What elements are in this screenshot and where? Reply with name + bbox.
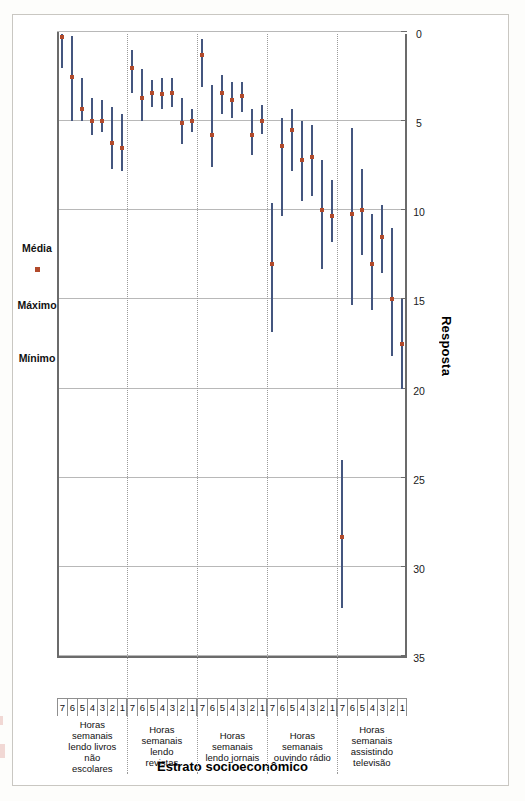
chart: MínimoMáximoMédia 7654321Horas semanais … [35,24,487,776]
min-max-range-line [351,128,353,305]
legend-item-mínimo: Mínimo [31,339,43,376]
mean-marker [190,119,194,123]
mean-marker [400,342,404,346]
category-tick-label: 7 [339,702,344,713]
mean-marker [340,535,344,539]
mean-marker [310,155,314,159]
mean-marker [90,119,94,123]
mean-marker [360,208,364,212]
category-tick-label: 6 [349,702,354,713]
category-tick-label: 6 [209,702,214,713]
legend-item-máximo: Máximo [31,286,43,325]
category-axis-title: Estrato socioeconômico [57,756,407,778]
value-axis-tick-label: 25 [399,474,439,486]
category-tick-7: 7 [57,698,67,716]
category-tick-6: 6 [207,698,217,716]
category-tick-6: 6 [137,698,147,716]
gridline [57,209,407,210]
category-tick-7: 7 [127,698,137,716]
mean-marker [370,262,374,266]
min-max-range-line [291,109,293,171]
category-tick-3: 3 [167,698,177,716]
min-max-range-line [251,109,253,155]
mean-marker [110,141,114,145]
min-max-range-line [201,39,203,87]
legend-mean-marker-icon [34,267,39,272]
gridline [57,388,407,389]
category-tick-5: 5 [287,698,297,716]
group-separator [197,34,198,774]
category-tick-2: 2 [107,698,117,716]
mean-marker [300,158,304,162]
category-tick-3: 3 [307,698,317,716]
mean-marker [100,119,104,123]
category-tick-label: 2 [249,702,254,713]
gridline [57,31,407,32]
category-tick-label: 3 [239,702,244,713]
chart-legend: MínimoMáximoMédia [31,233,43,376]
min-max-range-line [321,160,323,269]
mean-marker [200,53,204,57]
category-tick-4: 4 [157,698,167,716]
legend-item-label: Máximo [17,300,56,312]
category-tick-2: 2 [177,698,187,716]
category-tick-1: 1 [327,698,337,716]
category-tick-label: 6 [69,702,74,713]
mean-marker [350,212,354,216]
gridline [57,566,407,567]
rotated-chart-stage: MínimoMáximoMédia 7654321Horas semanais … [35,24,487,776]
category-tick-1: 1 [187,698,197,716]
mean-marker [220,91,224,95]
category-tick-label: 4 [89,702,94,713]
category-tick-5: 5 [147,698,157,716]
category-tick-3: 3 [237,698,247,716]
mean-marker [150,91,154,95]
category-tick-label: 6 [139,702,144,713]
min-max-range-line [391,228,393,356]
mean-marker [230,98,234,102]
category-tick-label: 1 [189,702,194,713]
gridline [57,477,407,478]
category-tick-3: 3 [97,698,107,716]
category-tick-label: 1 [399,702,404,713]
plot-top-rule [57,32,59,656]
min-max-range-line [211,86,213,168]
category-tick-label: 4 [159,702,164,713]
legend-item-label: Média [22,242,52,254]
value-axis-tick-label: 15 [399,295,439,307]
category-tick-label: 2 [109,702,114,713]
figure-frame: MínimoMáximoMédia 7654321Horas semanais … [12,14,509,786]
group-separator [267,34,268,774]
category-tick-3: 3 [377,698,387,716]
mean-marker [250,133,254,137]
category-tick-1: 1 [397,698,407,716]
category-tick-label: 7 [129,702,134,713]
category-tick-label: 7 [59,702,64,713]
mean-marker [60,35,64,39]
category-tick-label: 3 [379,702,384,713]
value-axis-title: Resposta [439,34,454,658]
mean-marker [390,297,394,301]
category-tick-5: 5 [77,698,87,716]
category-tick-label: 5 [79,702,84,713]
min-max-range-line [81,78,83,121]
mean-marker [170,91,174,95]
category-tick-label: 3 [309,702,314,713]
category-tick-label: 3 [169,702,174,713]
category-tick-label: 5 [289,702,294,713]
category-tick-label: 2 [319,702,324,713]
mean-marker [160,92,164,96]
min-max-range-line [311,125,313,196]
value-axis-tick-label: 0 [399,28,439,40]
category-tick-label: 2 [179,702,184,713]
scan-artifact [0,716,3,725]
mean-marker [80,107,84,111]
category-tick-4: 4 [227,698,237,716]
mean-marker [120,146,124,150]
category-axis-title-text: Estrato socioeconômico [156,759,307,774]
value-axis-tick-label: 35 [399,652,439,664]
min-max-range-line [111,107,113,169]
scan-artifact [0,744,5,758]
min-max-range-line [101,100,103,132]
min-max-range-line [281,118,283,216]
